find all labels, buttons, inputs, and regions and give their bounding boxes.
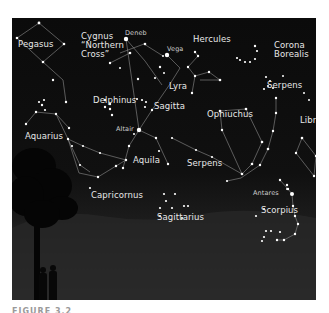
figure-caption: FIGURE 3.2 [12,306,72,313]
label-star-altair: Altair [116,126,134,133]
label-star-deneb: Deneb [125,30,147,37]
label-corona-borealis: Corona Borealis [274,41,309,59]
label-serpens-cauda: Serpens [187,159,222,168]
label-aquila: Aquila [133,156,160,165]
label-capricornus: Capricornus [91,191,143,200]
label-ophiuchus: Ophiuchus [207,110,253,119]
label-libra: Libra [300,116,316,125]
label-serpens-caput: Serpens [267,81,302,90]
label-star-antares: Antares [253,190,279,197]
label-star-vega: Vega [167,46,183,53]
horizon-hills [12,211,316,300]
label-sagittarius: Sagittarius [157,213,204,222]
label-lyra: Lyra [169,82,187,91]
label-sagitta: Sagitta [154,102,185,111]
label-cygnus: Cygnus “Northern Cross” [81,32,124,59]
star-chart: Pegasus Cygnus “Northern Cross” Hercules… [12,18,316,300]
label-delphinus: Delphinus [93,96,136,105]
label-pegasus: Pegasus [18,40,54,49]
constellation-map [12,18,316,300]
label-scorpius: Scorpius [261,206,298,215]
label-hercules: Hercules [193,35,231,44]
label-aquarius: Aquarius [25,132,63,141]
